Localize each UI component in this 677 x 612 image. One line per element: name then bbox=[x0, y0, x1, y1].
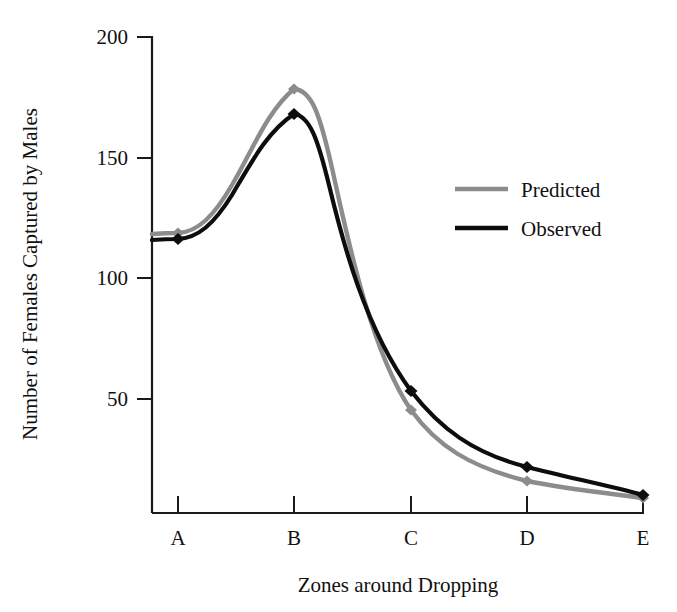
chart-canvas: 200 150 100 50 A B C D E Zones around Dr… bbox=[0, 0, 677, 612]
x-axis-title: Zones around Dropping bbox=[298, 573, 499, 597]
series-observed bbox=[152, 108, 650, 501]
y-tick-label-200: 200 bbox=[97, 25, 129, 49]
legend-label-predicted: Predicted bbox=[521, 178, 601, 202]
legend-label-observed: Observed bbox=[521, 217, 602, 241]
legend-item-predicted[interactable]: Predicted bbox=[455, 178, 601, 202]
series-predicted-markers bbox=[172, 84, 649, 504]
x-tick-label-b: B bbox=[287, 526, 301, 550]
x-axis-ticks bbox=[178, 496, 643, 513]
y-tick-label-50: 50 bbox=[107, 387, 128, 411]
x-tick-label-c: C bbox=[404, 526, 418, 550]
x-tick-label-d: D bbox=[519, 526, 534, 550]
y-tick-label-150: 150 bbox=[97, 146, 129, 170]
y-tick-label-100: 100 bbox=[97, 266, 129, 290]
x-tick-label-e: E bbox=[637, 526, 650, 550]
series-predicted bbox=[152, 84, 649, 504]
chart-figure: 200 150 100 50 A B C D E Zones around Dr… bbox=[0, 0, 677, 612]
series-observed-line bbox=[152, 114, 643, 495]
series-predicted-line bbox=[152, 89, 643, 498]
marker-predicted-d bbox=[521, 476, 533, 487]
chart-legend: Predicted Observed bbox=[455, 178, 602, 241]
y-axis-title: Number of Females Captured by Males bbox=[18, 108, 42, 440]
x-tick-label-a: A bbox=[170, 526, 186, 550]
marker-observed-d bbox=[521, 461, 534, 473]
y-axis-ticks bbox=[137, 37, 152, 399]
legend-item-observed[interactable]: Observed bbox=[455, 217, 602, 241]
